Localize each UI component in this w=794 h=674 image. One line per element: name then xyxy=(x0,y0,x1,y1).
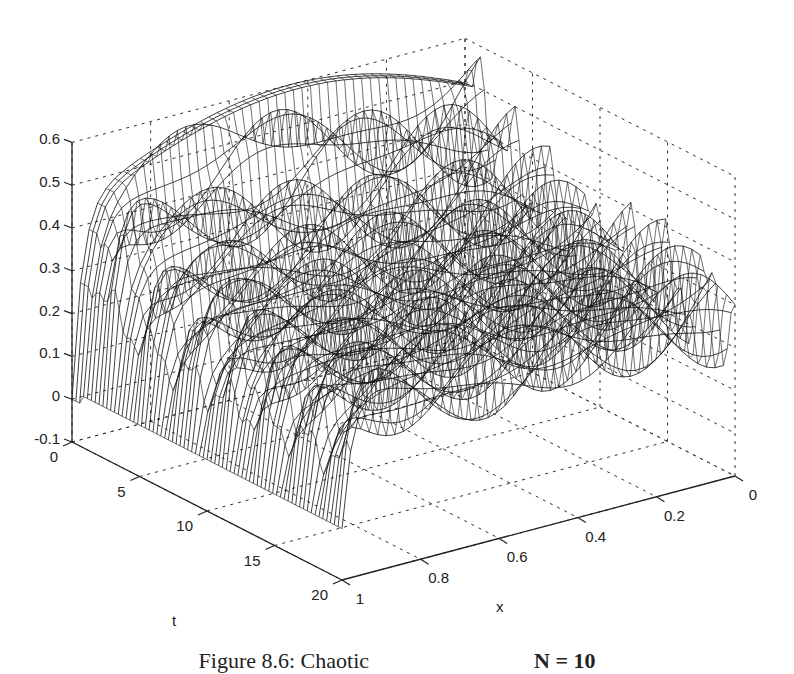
z-tick-label: 0 xyxy=(52,387,60,404)
z-tick-label: -0.1 xyxy=(34,430,60,447)
t-axis-label: t xyxy=(172,612,177,629)
z-tick-label: 0.5 xyxy=(39,173,60,190)
z-tick-label: 0.1 xyxy=(39,344,60,361)
t-tick-label: 0 xyxy=(50,448,58,465)
x-tick-label: 0 xyxy=(749,486,757,503)
figure-caption: Figure 8.6: Chaotic N = 10 xyxy=(0,648,794,674)
t-tick-label: 15 xyxy=(244,552,261,569)
z-tick-label: 0.3 xyxy=(39,259,60,276)
x-axis-label: x xyxy=(496,598,504,615)
x-tick-label: 0.4 xyxy=(585,528,606,545)
t-axis-ticks: 05101520 xyxy=(50,442,342,603)
x-tick-label: 0.2 xyxy=(664,507,685,524)
t-tick-label: 10 xyxy=(176,517,193,534)
caption-n-value: N = 10 xyxy=(534,648,595,673)
x-axis-ticks: 00.20.40.60.81 xyxy=(342,476,757,607)
caption-text: Figure 8.6: Chaotic xyxy=(199,648,369,673)
x-tick-label: 0.6 xyxy=(507,548,528,565)
z-axis-ticks: 0.60.50.40.30.20.10-0.1 xyxy=(34,130,72,447)
z-tick-label: 0.4 xyxy=(39,216,60,233)
x-tick-label: 1 xyxy=(356,590,364,607)
z-tick-label: 0.6 xyxy=(39,130,60,147)
surface-mesh xyxy=(72,57,735,529)
z-tick-label: 0.2 xyxy=(39,302,60,319)
t-tick-label: 20 xyxy=(311,586,328,603)
t-tick-label: 5 xyxy=(117,483,125,500)
x-tick-label: 0.8 xyxy=(428,569,449,586)
